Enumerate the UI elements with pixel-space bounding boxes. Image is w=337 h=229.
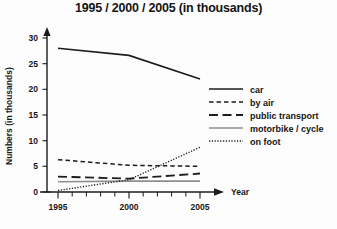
- y-tick-label: 20: [29, 84, 39, 94]
- x-tick-label: 2005: [191, 202, 210, 212]
- legend-item-by-air[interactable]: by air: [209, 98, 275, 108]
- x-tick-labels: 1995 2000 2005: [49, 202, 210, 212]
- y-tick-label: 10: [29, 136, 39, 146]
- legend-item-on-foot[interactable]: on foot: [209, 137, 281, 147]
- x-axis-title: Year: [231, 187, 250, 197]
- legend-item-car[interactable]: car: [209, 85, 264, 95]
- line-chart-plot: 0 5 10 15 20 25 30 Numbers (in thousands…: [0, 0, 337, 229]
- series-line-on-foot: [58, 147, 200, 190]
- y-tick-labels: 0 5 10 15 20 25 30: [29, 33, 39, 197]
- y-axis: [43, 27, 50, 192]
- x-tick-label: 1995: [49, 202, 68, 212]
- series-line-car: [58, 48, 200, 79]
- legend-item-motorbike-cycle[interactable]: motorbike / cycle: [209, 124, 324, 134]
- x-tick-label: 2000: [120, 202, 139, 212]
- legend-label-by-air: by air: [250, 98, 275, 108]
- y-tick-label: 5: [33, 161, 38, 171]
- series-line-by-air: [58, 160, 200, 167]
- legend-label-motorbike-cycle: motorbike / cycle: [250, 124, 324, 134]
- y-tick-label: 0: [33, 187, 38, 197]
- y-axis-title: Numbers (in thousands): [4, 67, 14, 165]
- series-group: [58, 48, 200, 190]
- legend-label-car: car: [250, 85, 264, 95]
- x-axis: [40, 188, 224, 196]
- series-line-public-transport: [58, 174, 200, 179]
- y-tick-label: 15: [29, 110, 39, 120]
- legend-item-public-transport[interactable]: public transport: [209, 111, 319, 121]
- x-tick-marks: [58, 192, 200, 199]
- series-line-motorbike-cycle: [58, 181, 200, 182]
- y-tick-label: 25: [29, 59, 39, 69]
- chart-legend: car by air public transport motorbike / …: [209, 85, 324, 147]
- x-axis-arrowhead: [214, 188, 224, 196]
- y-tick-label: 30: [29, 33, 39, 43]
- chart-container: 1995 / 2000 / 2005 (in thousands) 0 5 10: [0, 0, 337, 229]
- legend-label-on-foot: on foot: [250, 137, 281, 147]
- legend-label-public-transport: public transport: [250, 111, 319, 121]
- y-axis-arrowhead: [43, 27, 50, 36]
